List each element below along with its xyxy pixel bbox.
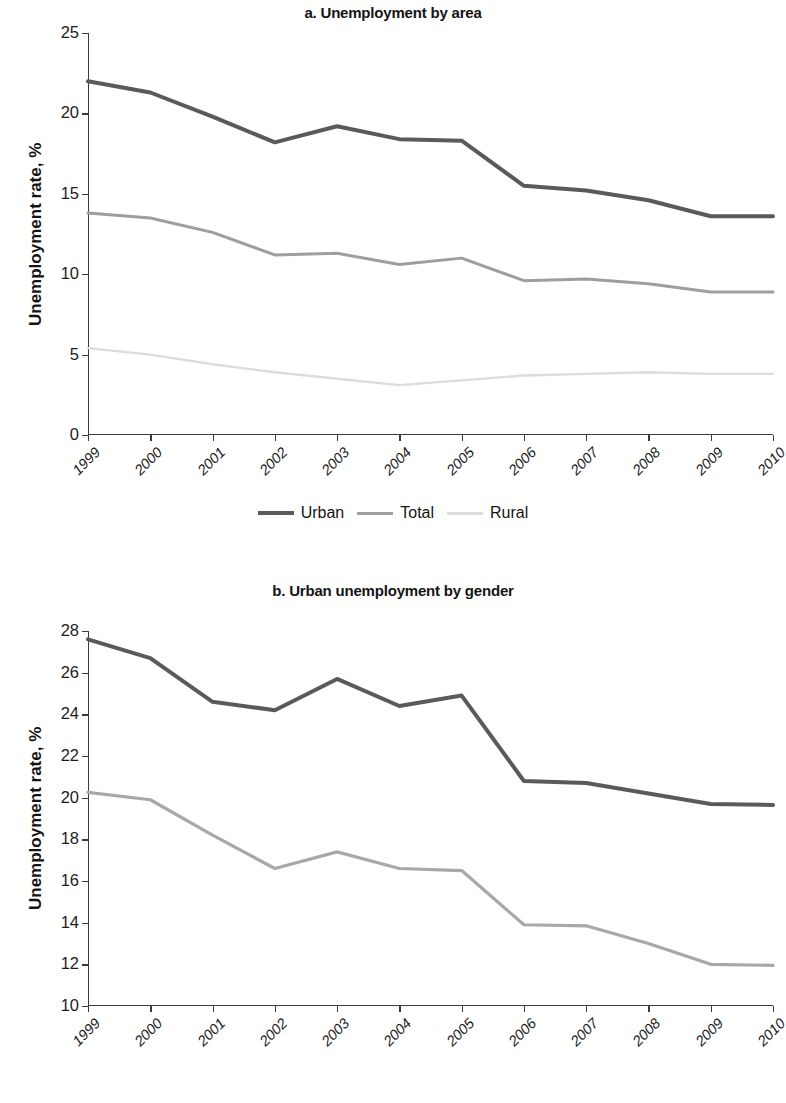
y-tick-mark bbox=[82, 113, 88, 114]
chart-b-y-axis-label: Unemployment rate, % bbox=[26, 727, 46, 910]
x-tick-mark bbox=[711, 435, 712, 441]
legend-item-total[interactable]: Total bbox=[357, 505, 434, 521]
x-tick-mark bbox=[88, 435, 89, 441]
y-tick-label: 22 bbox=[61, 746, 79, 765]
series-line-female bbox=[88, 639, 773, 805]
x-tick-mark bbox=[773, 435, 774, 441]
x-tick-mark bbox=[773, 1006, 774, 1012]
x-tick-mark bbox=[711, 1006, 712, 1012]
series-line-urban bbox=[88, 81, 773, 216]
y-tick-label: 10 bbox=[61, 996, 79, 1015]
y-tick-mark bbox=[82, 274, 88, 275]
y-tick-label: 28 bbox=[61, 621, 79, 640]
series-line-male bbox=[88, 792, 773, 965]
y-tick-label: 5 bbox=[70, 345, 79, 364]
x-tick-mark bbox=[275, 435, 276, 441]
y-tick-mark bbox=[82, 923, 88, 924]
y-tick-label: 0 bbox=[70, 425, 79, 444]
y-tick-label: 26 bbox=[61, 663, 79, 682]
x-tick-mark bbox=[524, 435, 525, 441]
x-tick-mark bbox=[213, 1006, 214, 1012]
y-tick-mark bbox=[82, 798, 88, 799]
x-tick-mark bbox=[399, 435, 400, 441]
series-line-rural bbox=[88, 348, 773, 385]
chart-a-y-axis-label: Unemployment rate, % bbox=[26, 142, 46, 325]
chart-panel-b: b. Urban unemployment by gender Unemploy… bbox=[0, 580, 786, 1103]
y-tick-label: 12 bbox=[61, 954, 79, 973]
y-tick-mark bbox=[82, 355, 88, 356]
y-tick-label: 25 bbox=[61, 23, 79, 42]
x-tick-mark bbox=[150, 435, 151, 441]
y-tick-mark bbox=[82, 194, 88, 195]
chart-b-series-layer bbox=[88, 631, 773, 1006]
y-tick-label: 15 bbox=[61, 184, 79, 203]
chart-a-plot-area: 0510152025199920002001200220032004200520… bbox=[88, 33, 773, 435]
x-tick-mark bbox=[462, 435, 463, 441]
y-tick-label: 20 bbox=[61, 788, 79, 807]
y-tick-label: 10 bbox=[61, 264, 79, 283]
legend-swatch-icon bbox=[447, 512, 483, 515]
y-tick-mark bbox=[82, 673, 88, 674]
chart-b-title: b. Urban unemployment by gender bbox=[0, 582, 786, 599]
x-tick-mark bbox=[213, 435, 214, 441]
legend-swatch-icon bbox=[357, 512, 393, 515]
legend-swatch-icon bbox=[258, 511, 294, 515]
y-tick-mark bbox=[82, 881, 88, 882]
y-tick-mark bbox=[82, 631, 88, 632]
x-tick-mark bbox=[337, 435, 338, 441]
x-tick-mark bbox=[275, 1006, 276, 1012]
x-tick-mark bbox=[648, 435, 649, 441]
x-tick-mark bbox=[399, 1006, 400, 1012]
x-tick-mark bbox=[150, 1006, 151, 1012]
y-tick-mark bbox=[82, 714, 88, 715]
chart-b-plot-area: 1012141618202224262819992000200120022003… bbox=[88, 631, 773, 1006]
chart-a-title: a. Unemployment by area bbox=[0, 4, 786, 21]
x-tick-mark bbox=[586, 435, 587, 441]
chart-a-legend: UrbanTotalRural bbox=[0, 505, 786, 521]
y-tick-mark bbox=[82, 964, 88, 965]
chart-panel-a: a. Unemployment by area Unemployment rat… bbox=[0, 0, 786, 545]
y-tick-label: 20 bbox=[61, 104, 79, 123]
series-line-total bbox=[88, 213, 773, 292]
y-tick-label: 24 bbox=[61, 704, 79, 723]
legend-label: Urban bbox=[301, 505, 345, 521]
y-tick-mark bbox=[82, 839, 88, 840]
y-tick-mark bbox=[82, 756, 88, 757]
legend-item-urban[interactable]: Urban bbox=[258, 505, 345, 521]
x-tick-mark bbox=[88, 1006, 89, 1012]
legend-item-rural[interactable]: Rural bbox=[447, 505, 528, 521]
x-tick-mark bbox=[337, 1006, 338, 1012]
x-tick-mark bbox=[648, 1006, 649, 1012]
x-tick-mark bbox=[524, 1006, 525, 1012]
y-tick-label: 16 bbox=[61, 871, 79, 890]
legend-label: Total bbox=[400, 505, 434, 521]
x-tick-mark bbox=[586, 1006, 587, 1012]
y-tick-label: 14 bbox=[61, 913, 79, 932]
y-tick-label: 18 bbox=[61, 829, 79, 848]
y-tick-mark bbox=[82, 33, 88, 34]
figure-page: a. Unemployment by area Unemployment rat… bbox=[0, 0, 786, 1103]
legend-label: Rural bbox=[490, 505, 528, 521]
chart-a-series-layer bbox=[88, 33, 773, 435]
x-tick-mark bbox=[462, 1006, 463, 1012]
